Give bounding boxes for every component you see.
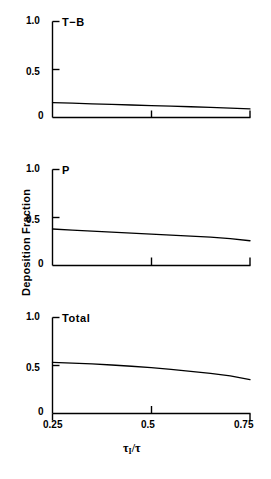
- data-curve-t-b: [53, 103, 251, 109]
- panel-title-total: Total: [62, 312, 90, 324]
- xtick-label-left: 0.25: [43, 419, 62, 430]
- data-curve-p: [53, 229, 251, 241]
- panel1-ytick-top: 1.0: [26, 15, 40, 26]
- panel2-ytick-top: 1.0: [26, 163, 40, 174]
- data-curve-total: [53, 362, 251, 379]
- panel3-ytick-top: 1.0: [26, 311, 40, 322]
- figure-container: Deposition Fraction T−B 1.0 0.5 0 P 1.0 …: [0, 0, 271, 479]
- panel3-ytick-mid: 0.5: [26, 362, 40, 373]
- panel1-ytick-mid: 0.5: [26, 66, 40, 77]
- panel2-ytick-mid: 0.5: [26, 214, 40, 225]
- y-axis-label: Deposition Fraction: [20, 189, 32, 296]
- panel3-ytick-bottom: 0: [38, 406, 44, 417]
- x-axis-label-denominator: /τ: [132, 441, 141, 455]
- xtick-label-mid: 0.5: [141, 419, 155, 430]
- panel1-ytick-bottom: 0: [38, 110, 44, 121]
- panel-title-p: P: [62, 164, 70, 176]
- panel-title-t-b: T−B: [62, 16, 85, 28]
- x-axis-label: τI/τ: [123, 441, 141, 456]
- panel2-ytick-bottom: 0: [38, 258, 44, 269]
- xtick-label-right: 0.75: [234, 419, 253, 430]
